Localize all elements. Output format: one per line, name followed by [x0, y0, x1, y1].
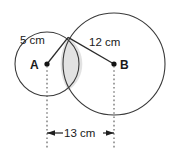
center-point-a-dot — [44, 61, 49, 66]
distance-ab-label: 13 cm — [64, 127, 95, 139]
center-a-label: A — [30, 58, 39, 72]
center-b-label: B — [120, 58, 129, 72]
arrowhead-right — [106, 130, 114, 136]
geometry-figure: 5 cm 12 cm A B 13 cm — [0, 0, 177, 158]
circles-diagram-canvas: 5 cm 12 cm A B 13 cm — [0, 0, 177, 158]
arrowhead-left — [47, 130, 55, 136]
center-point-b-dot — [111, 61, 116, 66]
radius-a-label: 5 cm — [20, 34, 45, 46]
radius-b-label: 12 cm — [89, 36, 120, 48]
